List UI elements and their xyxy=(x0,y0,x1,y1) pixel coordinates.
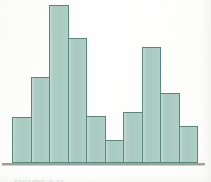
figure-scan: FIGURE 2.11 xyxy=(0,0,211,182)
x-axis-baseline xyxy=(2,163,205,165)
bar xyxy=(86,116,106,163)
bar xyxy=(179,126,199,163)
bar xyxy=(49,5,69,163)
bar xyxy=(105,140,125,163)
bar xyxy=(160,93,180,163)
bar xyxy=(12,117,32,163)
histogram-plot xyxy=(0,0,211,182)
bar xyxy=(31,77,51,163)
bar xyxy=(142,47,162,163)
bar xyxy=(68,38,88,163)
axis-baseline-shadow xyxy=(2,165,205,166)
figure-caption: FIGURE 2.11 xyxy=(14,178,65,182)
bar xyxy=(123,112,143,163)
bar-series xyxy=(12,3,197,163)
